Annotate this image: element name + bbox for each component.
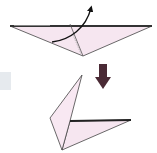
crease-edge (70, 120, 131, 121)
origami-diagram (0, 0, 157, 153)
lower-flap (62, 120, 131, 150)
step-after-figure (50, 75, 131, 150)
down-arrow-icon (95, 64, 111, 89)
step-before-figure (10, 8, 152, 56)
